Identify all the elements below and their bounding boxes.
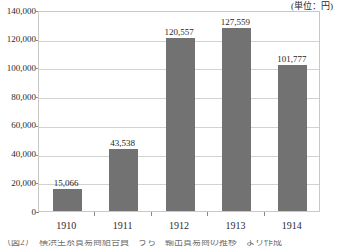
x-tick-label-1911: 1911: [93, 220, 153, 232]
bar-value-1911: 43,538: [93, 138, 153, 148]
x-tick-label-1914: 1914: [262, 220, 322, 232]
bar-1913: [222, 28, 251, 211]
bar-value-1913: 127,559: [205, 17, 265, 27]
y-tick-label: 120,000: [0, 35, 36, 44]
y-tick-mark: [35, 155, 38, 156]
bar-1911: [109, 149, 138, 212]
y-tick-label: 100,000: [0, 64, 36, 73]
y-tick-mark: [35, 68, 38, 69]
y-tick-label: 0: [0, 208, 36, 217]
bar-value-1912: 120,557: [149, 27, 209, 37]
y-tick-label: 40,000: [0, 150, 36, 159]
y-tick-mark: [35, 212, 38, 213]
x-tick-label-1913: 1913: [205, 220, 265, 232]
y-tick-label: 20,000: [0, 179, 36, 188]
y-tick-mark: [35, 97, 38, 98]
y-tick-mark: [35, 126, 38, 127]
x-tick-label-1910: 1910: [36, 220, 96, 232]
x-tick-mark: [151, 212, 152, 216]
x-tick-mark: [94, 212, 95, 216]
x-tick-label-1912: 1912: [149, 220, 209, 232]
y-tick-mark: [35, 11, 38, 12]
y-tick-label: 60,000: [0, 121, 36, 130]
bar-1914: [278, 65, 307, 211]
bar-1910: [53, 189, 82, 211]
figure-caption: （図2） 横浜生糸貿易商組合員 うち 輸出貿易商の推移 より作成: [0, 240, 337, 249]
bar-value-1914: 101,777: [262, 54, 322, 64]
x-tick-mark: [264, 212, 265, 216]
bar-value-1910: 15,066: [36, 178, 96, 188]
y-tick-label: 140,000: [0, 7, 36, 16]
figure-caption-text: （図2） 横浜生糸貿易商組合員 うち 輸出貿易商の推移 より作成: [2, 240, 282, 248]
bar-1912: [166, 38, 195, 211]
bar-chart-figure: (単位：円) 020,00040,00060,00080,000100,0001…: [0, 0, 337, 249]
y-tick-label: 80,000: [0, 93, 36, 102]
y-tick-mark: [35, 40, 38, 41]
x-tick-mark: [207, 212, 208, 216]
